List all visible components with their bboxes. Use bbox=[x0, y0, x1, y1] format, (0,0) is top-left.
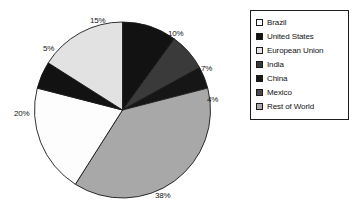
legend-color-swatch bbox=[256, 47, 263, 54]
legend-item[interactable]: Brazil bbox=[256, 15, 344, 29]
pie-slice-group bbox=[34, 22, 210, 198]
legend-color-swatch bbox=[256, 103, 263, 110]
legend-color-swatch bbox=[256, 89, 263, 96]
pie-slice-value-label: 5% bbox=[43, 44, 54, 53]
legend-row-group: BrazilUnited StatesEuropean UnionIndiaCh… bbox=[256, 15, 344, 113]
pie-chart-figure: 10%7%4%38%20%5%15% BrazilUnited StatesEu… bbox=[0, 0, 357, 212]
pie-slice-value-label: 10% bbox=[168, 29, 183, 38]
pie-slice-value-label: 38% bbox=[155, 191, 170, 200]
legend-item[interactable]: India bbox=[256, 57, 344, 71]
legend-item[interactable]: Rest of World bbox=[256, 99, 344, 113]
pie-slice-value-label: 7% bbox=[201, 64, 212, 73]
legend-item-label: Mexico bbox=[267, 88, 292, 97]
legend-item[interactable]: China bbox=[256, 71, 344, 85]
legend-item[interactable]: United States bbox=[256, 29, 344, 43]
legend-item[interactable]: European Union bbox=[256, 43, 344, 57]
legend-item-label: India bbox=[267, 60, 284, 69]
legend-color-swatch bbox=[256, 33, 263, 40]
pie-plot-area: 10%7%4%38%20%5%15% bbox=[0, 0, 245, 212]
legend-item-label: European Union bbox=[267, 46, 323, 55]
legend-color-swatch bbox=[256, 75, 263, 82]
pie-svg bbox=[0, 0, 245, 212]
pie-slice-value-label: 4% bbox=[207, 95, 218, 104]
legend-item-label: China bbox=[267, 74, 287, 83]
legend-item-label: Brazil bbox=[267, 18, 286, 27]
pie-slice-value-label: 20% bbox=[14, 109, 29, 118]
legend-item-label: Rest of World bbox=[267, 102, 314, 111]
legend-item[interactable]: Mexico bbox=[256, 85, 344, 99]
legend-color-swatch bbox=[256, 19, 263, 26]
legend-color-swatch bbox=[256, 61, 263, 68]
chart-legend: BrazilUnited StatesEuropean UnionIndiaCh… bbox=[250, 10, 349, 120]
pie-slice-value-label: 15% bbox=[90, 16, 105, 25]
legend-item-label: United States bbox=[267, 32, 314, 41]
